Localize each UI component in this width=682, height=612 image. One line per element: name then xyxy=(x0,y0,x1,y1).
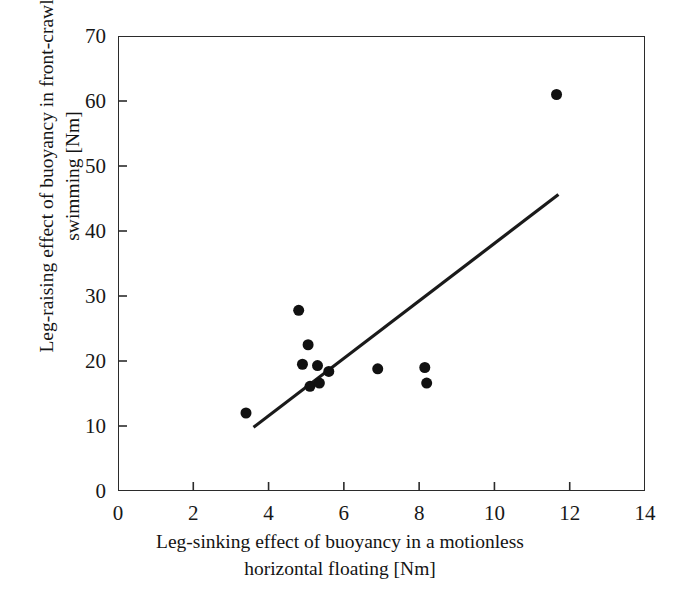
x-axis-ticks xyxy=(193,482,569,491)
x-axis-title-line2: horizontal floating [Nm] xyxy=(244,558,436,579)
x-tick-label: 6 xyxy=(339,501,350,526)
scatter-chart-figure: 010203040506070 02468101214 Leg-raising … xyxy=(0,0,682,612)
x-axis-title-line1: Leg-sinking effect of buoyancy in a moti… xyxy=(156,531,524,552)
y-tick-label: 10 xyxy=(42,414,106,439)
y-axis-title-line2: swimming [Nm] xyxy=(62,111,83,240)
x-tick-label: 14 xyxy=(635,501,656,526)
x-tick-label: 4 xyxy=(263,501,274,526)
data-point-marker xyxy=(372,363,383,374)
x-tick-label: 12 xyxy=(559,501,580,526)
x-tick-label: 10 xyxy=(484,501,505,526)
y-axis-title: Leg-raising effect of buoyancy in front-… xyxy=(34,0,86,386)
data-point-marker xyxy=(240,408,251,419)
data-point-marker xyxy=(419,362,430,373)
y-axis-title-line1: Leg-raising effect of buoyancy in front-… xyxy=(36,0,57,353)
data-point-marker xyxy=(304,381,315,392)
x-tick-label: 2 xyxy=(188,501,199,526)
data-point-marker xyxy=(312,360,323,371)
x-tick-label: 0 xyxy=(113,501,124,526)
y-tick-label: 0 xyxy=(42,479,106,504)
data-point-marker xyxy=(303,339,314,350)
x-axis-title: Leg-sinking effect of buoyancy in a moti… xyxy=(60,528,620,582)
y-axis-ticks xyxy=(118,101,127,426)
data-point-marker xyxy=(314,378,325,389)
x-tick-label: 8 xyxy=(414,501,425,526)
data-points-group xyxy=(240,89,562,419)
data-point-marker xyxy=(421,378,432,389)
data-point-marker xyxy=(551,89,562,100)
data-point-marker xyxy=(293,305,304,316)
data-point-marker xyxy=(323,366,334,377)
data-point-marker xyxy=(297,359,308,370)
